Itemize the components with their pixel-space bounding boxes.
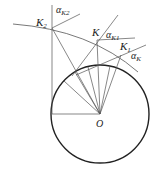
label-k: K [91,26,100,38]
radius-a [75,72,100,114]
label-o: O [96,118,103,129]
label-alpha-k1: αK1 [106,29,119,42]
label-k1: K1 [119,40,131,54]
radius-k1 [100,55,121,114]
label-k2: K2 [35,16,47,30]
label-alpha-k2: αK2 [56,4,70,17]
involute-diagram: K2 αK2 K αK1 K1 αK O [0,0,160,177]
label-alpha-k: αK [131,50,141,63]
radius-d [64,81,100,114]
